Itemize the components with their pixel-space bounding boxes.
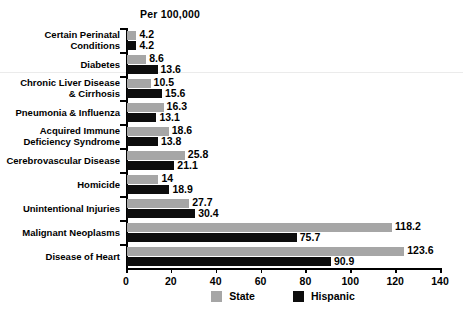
bar-value-label: 90.9 — [334, 257, 354, 266]
bar-value-label: 30.4 — [198, 209, 218, 218]
x-axis-tick-label: 0 — [123, 275, 129, 287]
x-axis-tick — [261, 268, 263, 273]
category-label: Disease of Heart — [46, 251, 120, 262]
x-axis-tick-label: 40 — [210, 275, 222, 287]
bar-value-label: 16.3 — [167, 102, 187, 111]
category-label: Homicide — [77, 179, 120, 190]
bar-hispanic[interactable] — [127, 137, 158, 146]
category-label: Pneumonia & Influenza — [15, 107, 120, 118]
bar-state[interactable] — [127, 247, 404, 256]
x-axis-tick — [171, 268, 173, 273]
x-axis-tick-label: 60 — [255, 275, 267, 287]
bar-value-label: 21.1 — [177, 161, 197, 170]
x-axis-tick — [126, 268, 128, 273]
bar-value-label: 4.2 — [139, 41, 154, 50]
category-label: Malignant Neoplasms — [22, 227, 120, 238]
legend-label-hispanic: Hispanic — [311, 290, 355, 302]
bar-state[interactable] — [127, 103, 164, 112]
bar-value-label: 118.2 — [395, 222, 421, 231]
bar-state[interactable] — [127, 199, 189, 208]
plot-area: 0204060801001201404.24.28.613.610.515.61… — [126, 28, 440, 268]
category-label: Certain Perinatal Conditions — [45, 29, 121, 51]
x-axis-tick — [350, 268, 352, 273]
bar-value-label: 4.2 — [139, 30, 154, 39]
category-label: Chronic Liver Disease & Cirrhosis — [20, 77, 120, 99]
bar-hispanic[interactable] — [127, 209, 195, 218]
legend-swatch-state-icon — [211, 291, 222, 302]
bar-state[interactable] — [127, 79, 151, 88]
bar-value-label: 13.6 — [161, 65, 181, 74]
bar-state[interactable] — [127, 55, 146, 64]
y-axis-tick — [120, 148, 127, 150]
y-axis-tick — [120, 124, 127, 126]
y-axis-tick — [120, 28, 127, 30]
legend-label-state: State — [229, 290, 255, 302]
category-label: Unintentional Injuries — [23, 203, 120, 214]
bar-hispanic[interactable] — [127, 257, 331, 266]
bar-value-label: 75.7 — [300, 233, 320, 242]
legend-item-state[interactable]: State — [211, 290, 255, 302]
x-axis-tick — [395, 268, 397, 273]
x-axis-tick-label: 80 — [300, 275, 312, 287]
bar-value-label: 18.6 — [172, 126, 192, 135]
x-axis-tick-label: 20 — [165, 275, 177, 287]
bar-hispanic[interactable] — [127, 89, 162, 98]
bar-hispanic[interactable] — [127, 65, 158, 74]
bar-state[interactable] — [127, 31, 136, 40]
bar-value-label: 15.6 — [165, 89, 185, 98]
x-axis-line — [126, 268, 440, 270]
y-axis-tick — [120, 220, 127, 222]
category-label: Diabetes — [80, 59, 120, 70]
bar-value-label: 14 — [161, 174, 173, 183]
bar-state[interactable] — [127, 175, 158, 184]
y-axis-tick — [120, 52, 127, 54]
x-axis-tick — [305, 268, 307, 273]
bar-value-label: 13.8 — [161, 137, 181, 146]
bar-value-label: 18.9 — [172, 185, 192, 194]
y-axis-tick — [120, 196, 127, 198]
y-axis-tick — [120, 100, 127, 102]
legend-swatch-hispanic-icon — [293, 291, 304, 302]
y-axis-tick — [120, 76, 127, 78]
bar-hispanic[interactable] — [127, 41, 136, 50]
x-axis-tick-label: 120 — [386, 275, 404, 287]
bar-value-label: 8.6 — [149, 54, 164, 63]
bar-value-label: 123.6 — [407, 246, 433, 255]
chart-legend: State Hispanic — [126, 288, 440, 304]
y-axis-tick — [120, 244, 127, 246]
x-axis-tick-label: 140 — [431, 275, 449, 287]
bar-value-label: 25.8 — [188, 150, 208, 159]
bar-state[interactable] — [127, 223, 392, 232]
bar-value-label: 13.1 — [159, 113, 179, 122]
category-label: Cerebrovascular Disease — [6, 155, 120, 166]
x-axis-tick — [216, 268, 218, 273]
bar-hispanic[interactable] — [127, 185, 169, 194]
category-label: Acquired Immune Deficiency Syndrome — [23, 125, 120, 147]
bar-chart: Per 100,000 Certain Perinatal Conditions… — [0, 0, 463, 311]
bar-hispanic[interactable] — [127, 161, 174, 170]
bar-state[interactable] — [127, 151, 185, 160]
chart-title: Per 100,000 — [140, 8, 200, 20]
bar-value-label: 27.7 — [192, 198, 212, 207]
y-axis-tick — [120, 172, 127, 174]
legend-item-hispanic[interactable]: Hispanic — [293, 290, 355, 302]
bar-value-label: 10.5 — [154, 78, 174, 87]
bar-hispanic[interactable] — [127, 113, 156, 122]
x-axis-tick-label: 100 — [342, 275, 360, 287]
x-axis-tick — [440, 268, 442, 273]
category-axis-labels: Certain Perinatal ConditionsDiabetesChro… — [0, 28, 120, 268]
bar-hispanic[interactable] — [127, 233, 297, 242]
